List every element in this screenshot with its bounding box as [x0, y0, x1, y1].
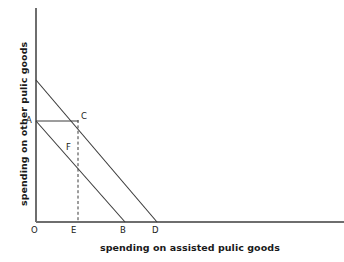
- point-label-f: F: [66, 143, 71, 152]
- point-label-b: B: [120, 226, 126, 235]
- point-label-e: E: [71, 226, 76, 235]
- budget-line-ab: [36, 121, 125, 222]
- chart-figure: A C F O E B D spending on assisted pulic…: [0, 0, 344, 262]
- chart-plot-area: [0, 0, 344, 262]
- point-label-origin: O: [31, 226, 38, 235]
- x-axis-title: spending on assisted pulic goods: [100, 242, 280, 253]
- point-label-c: C: [81, 112, 87, 121]
- point-label-d: D: [152, 226, 159, 235]
- budget-line-cd: [36, 80, 157, 222]
- y-axis-title: spending on other pulic goods: [18, 42, 29, 206]
